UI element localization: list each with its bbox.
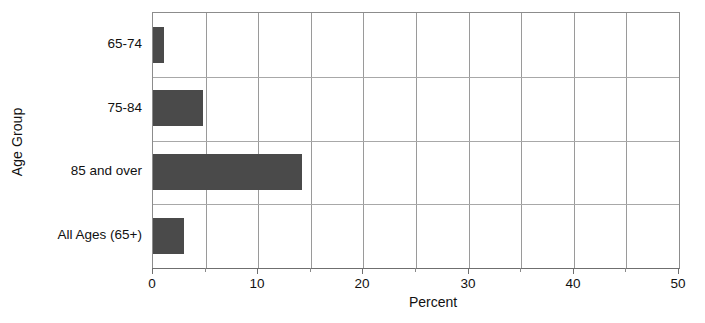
bar — [153, 218, 184, 254]
bar — [153, 27, 164, 63]
y-axis-tick-label: All Ages (65+) — [58, 227, 142, 243]
x-axis-major-tick — [573, 268, 574, 274]
horizontal-gridline — [153, 141, 679, 142]
bar-chart: Age Group 65-7475-8485 and overAll Ages … — [0, 0, 705, 323]
y-axis-tick-label: 65-74 — [107, 36, 142, 52]
x-axis-tick-label: 10 — [249, 276, 264, 291]
y-axis-title: Age Group — [0, 0, 34, 283]
x-axis-title: Percent — [409, 294, 457, 310]
y-axis-tick-label: 75-84 — [107, 100, 142, 116]
x-axis-tick-label: 30 — [460, 276, 475, 291]
x-axis-minor-tick — [205, 268, 206, 272]
horizontal-gridline — [153, 77, 679, 78]
x-axis-tick-label: 20 — [354, 276, 369, 291]
x-axis-minor-tick — [625, 268, 626, 272]
y-axis-tick-label: 85 and over — [71, 163, 142, 179]
plot-area — [152, 12, 680, 269]
x-axis-major-tick — [362, 268, 363, 274]
x-axis-minor-tick — [415, 268, 416, 272]
x-axis-major-tick — [257, 268, 258, 274]
x-axis-major-tick — [468, 268, 469, 274]
y-axis-title-text: Age Group — [9, 107, 25, 176]
bar — [153, 154, 302, 190]
x-axis-major-tick — [152, 268, 153, 274]
bar — [153, 90, 203, 126]
x-axis-major-tick — [678, 268, 679, 274]
x-axis-tick-label: 50 — [670, 276, 685, 291]
x-axis-minor-tick — [310, 268, 311, 272]
horizontal-gridline — [153, 204, 679, 205]
x-axis-minor-tick — [520, 268, 521, 272]
x-axis-tick-label: 40 — [565, 276, 580, 291]
x-axis-tick-label: 0 — [148, 276, 156, 291]
y-axis-tick-labels: 65-7475-8485 and overAll Ages (65+) — [34, 12, 148, 267]
